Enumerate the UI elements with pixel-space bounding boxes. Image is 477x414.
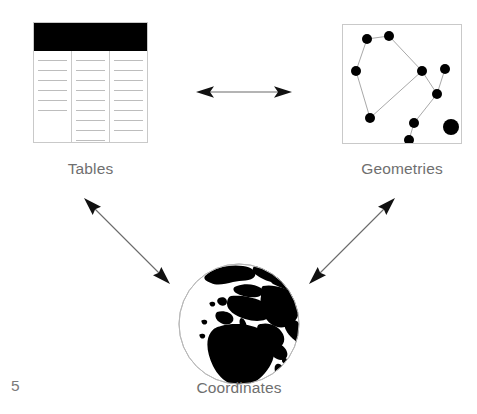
- page-number: 5: [11, 377, 20, 395]
- geometry-point: [384, 31, 394, 41]
- point-network-icon: [342, 24, 462, 144]
- geometry-point: [365, 113, 375, 123]
- table-body: [34, 51, 147, 142]
- table-header-band: [34, 23, 147, 51]
- table-column-3: [109, 51, 147, 142]
- label-geometries: Geometries: [342, 160, 462, 178]
- geometry-edge: [356, 39, 367, 71]
- arrow-tables-geometries: [196, 78, 292, 106]
- geometry-point: [417, 66, 427, 76]
- globe-icon: [177, 262, 301, 386]
- arrow-tables-coordinates: [84, 198, 170, 284]
- table-column-2: [71, 51, 109, 142]
- geometry-edge: [389, 36, 422, 71]
- label-tables: Tables: [33, 160, 148, 178]
- geometry-point: [362, 34, 372, 44]
- geometry-edge: [414, 94, 437, 123]
- geometry-points-graph: [343, 25, 461, 143]
- geometry-point: [404, 135, 414, 143]
- table-icon: [33, 22, 148, 143]
- arrow-geometries-coordinates: [309, 198, 395, 284]
- geometry-point: [443, 119, 459, 135]
- geometry-point: [409, 118, 419, 128]
- globe-graphic: [177, 262, 301, 386]
- geometry-point: [351, 66, 361, 76]
- geometry-edge: [356, 71, 370, 118]
- geometry-point: [432, 89, 442, 99]
- table-column-1: [34, 51, 71, 142]
- label-coordinates: Coordinates: [177, 379, 301, 397]
- diagram-canvas: Tables Geometries: [0, 0, 477, 414]
- geometry-point: [440, 64, 450, 74]
- geometry-edge: [370, 71, 422, 118]
